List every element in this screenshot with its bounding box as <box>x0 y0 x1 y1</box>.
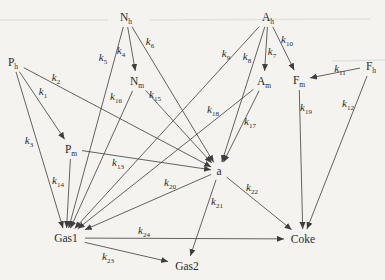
rate-constant-label-k5: k5 <box>99 51 108 66</box>
rate-constant-label-k8: k8 <box>243 50 252 65</box>
reaction-network-figure: k1k2k3k4k5k6k7k8k9k10k11k12k13k14k15k16k… <box>0 0 385 280</box>
rate-constant-label-k12: k12 <box>342 97 354 112</box>
rate-constant-label-k15: k15 <box>149 88 161 103</box>
node-Fh: Fh <box>366 60 376 75</box>
node-Ph: Ph <box>8 56 18 71</box>
edge-k21-a-to-Gas2 <box>190 180 216 256</box>
reaction-network-diagram: k1k2k3k4k5k6k7k8k9k10k11k12k13k14k15k16k… <box>0 0 385 280</box>
edge-k5-Nh-to-Gas1 <box>69 27 124 228</box>
rate-constant-label-k18: k18 <box>207 103 219 118</box>
edge-k4-Nh-to-Nm <box>128 27 136 71</box>
rate-constant-label-k19: k19 <box>300 101 312 116</box>
scan-artifact-line <box>332 60 385 61</box>
edge-k12-Fh-to-Coke <box>307 76 367 229</box>
node-Nh: Nh <box>120 11 132 26</box>
rate-constant-label-k21: k21 <box>211 195 223 210</box>
rate-constant-label-k17: k17 <box>244 115 256 130</box>
rate-constant-label-k22: k22 <box>246 181 258 196</box>
node-Ah: Ah <box>262 11 274 26</box>
rate-constant-label-k4: k4 <box>117 44 126 59</box>
node-Gas1: Gas1 <box>54 232 78 244</box>
node-Pm: Pm <box>65 143 77 158</box>
node-Gas2: Gas2 <box>175 260 199 272</box>
edge-k22-a-to-Coke <box>227 177 292 230</box>
edge-k24-Gas1-to-Coke <box>85 238 284 239</box>
edge-k16-Nm-to-Gas1 <box>70 91 132 228</box>
rate-constant-label-k7: k7 <box>268 45 277 60</box>
rate-constant-label-k3: k3 <box>25 134 34 149</box>
rate-constant-label-k14: k14 <box>52 174 64 189</box>
rate-constant-label-k1: k1 <box>39 85 48 100</box>
scan-artifact-line <box>150 19 370 20</box>
rate-constant-label-k24: k24 <box>138 224 150 239</box>
node-Coke: Coke <box>291 233 315 245</box>
rate-constant-label-k20: k20 <box>164 176 176 191</box>
edge-k20-a-to-Gas1 <box>85 174 211 229</box>
edge-k14-Pm-to-Gas1 <box>67 159 71 228</box>
edge-k6-Nh-to-a <box>132 27 214 163</box>
node-Nm: Nm <box>130 75 144 90</box>
rate-constant-label-k6: k6 <box>146 35 155 50</box>
rate-constant-label-k16: k16 <box>110 90 122 105</box>
node-Fm: Fm <box>293 74 305 89</box>
rate-constant-label-k23: k23 <box>102 250 114 265</box>
node-a: a <box>216 165 221 177</box>
rate-constant-label-k9: k9 <box>222 47 231 62</box>
rate-constant-label-k10: k10 <box>281 33 293 48</box>
edge-k23-Gas1-to-Gas2 <box>85 242 168 261</box>
edge-k8-Ah-to-a <box>222 27 265 162</box>
rate-constant-label-k13: k13 <box>112 156 124 171</box>
rate-constant-label-k11: k11 <box>334 62 346 77</box>
node-Am: Am <box>257 75 271 90</box>
